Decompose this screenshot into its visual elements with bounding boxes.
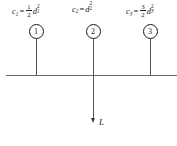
formula-1-numerator: 1: [26, 3, 31, 10]
node-formula-3: c3=32d23: [126, 3, 155, 18]
formula-3-fraction: 32: [140, 3, 145, 18]
formula-1-fraction: 12: [26, 3, 31, 18]
formula-1-denominator: 2: [26, 10, 31, 18]
node-stem-3: [150, 39, 151, 75]
formula-3-numerator: 3: [140, 3, 145, 10]
node-circle-2[interactable]: 2: [86, 24, 101, 39]
formula-3-denominator: 2: [140, 10, 145, 18]
formula-2-rhs-indices: 22: [89, 3, 93, 12]
baseline: [6, 75, 177, 76]
formula-2-rhs-sub: 2: [89, 6, 92, 11]
node-circle-3[interactable]: 3: [143, 24, 158, 39]
load-arrow-head-icon: [91, 118, 95, 123]
node-stem-1: [36, 39, 37, 75]
formula-3-rhs-sub: 3: [151, 9, 154, 14]
node-formula-1: c1=12d21: [12, 3, 41, 18]
formula-3-equals: =: [132, 6, 139, 16]
cantilever-node-diagram: c1=12d21 c2=d22 c3=32d23 1 2 3 L: [0, 0, 177, 146]
formula-1-rhs-sub: 1: [37, 9, 40, 14]
load-label: L: [99, 118, 104, 127]
node-stem-2: [93, 39, 94, 75]
node-circle-1[interactable]: 1: [29, 24, 44, 39]
node-formula-2: c2=d22: [72, 3, 93, 14]
formula-1-rhs-indices: 21: [37, 6, 41, 15]
load-arrow-shaft: [93, 75, 94, 119]
formula-1-equals: =: [18, 6, 25, 16]
formula-3-rhs-indices: 23: [151, 6, 155, 15]
